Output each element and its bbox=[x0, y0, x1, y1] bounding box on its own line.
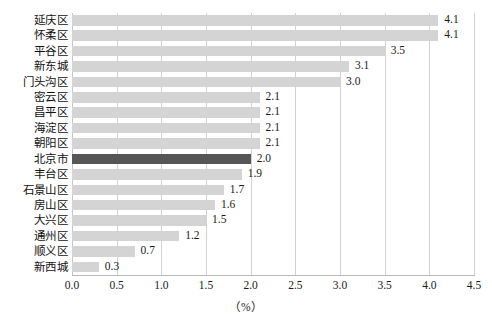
x-tick-4.5: 4.5 bbox=[467, 278, 481, 293]
bar-房山区[interactable] bbox=[72, 200, 215, 211]
bar-通州区[interactable] bbox=[72, 231, 179, 242]
bar-value-label: 2.1 bbox=[266, 120, 280, 134]
bar-顺义区[interactable] bbox=[72, 246, 135, 257]
bar-门头沟区[interactable] bbox=[72, 77, 340, 88]
bar-row: 1.2 bbox=[72, 229, 474, 244]
category-label-密云区: 密云区 bbox=[2, 90, 68, 105]
bar-value-label: 0.7 bbox=[141, 243, 155, 257]
category-label-新东城: 新东城 bbox=[2, 59, 68, 74]
bar-row: 2.1 bbox=[72, 105, 474, 120]
bar-value-label: 4.1 bbox=[444, 12, 458, 26]
bar-value-label: 2.1 bbox=[266, 135, 280, 149]
x-axis-line bbox=[72, 275, 475, 276]
bar-row: 3.0 bbox=[72, 75, 474, 90]
bar-value-label: 3.1 bbox=[355, 58, 369, 72]
x-tick-2.5: 2.5 bbox=[288, 278, 302, 293]
x-tick-1.5: 1.5 bbox=[199, 278, 213, 293]
category-label-昌平区: 昌平区 bbox=[2, 105, 68, 120]
category-label-北京市: 北京市 bbox=[2, 152, 68, 167]
x-tick-2.0: 2.0 bbox=[243, 278, 257, 293]
category-label-门头沟区: 门头沟区 bbox=[2, 75, 68, 90]
bar-北京市[interactable] bbox=[72, 154, 251, 165]
category-label-房山区: 房山区 bbox=[2, 198, 68, 213]
bar-朝阳区[interactable] bbox=[72, 138, 260, 149]
category-label-海淀区: 海淀区 bbox=[2, 121, 68, 136]
bar-row: 4.1 bbox=[72, 13, 474, 28]
x-tick-0.0: 0.0 bbox=[65, 278, 79, 293]
bar-value-label: 2.0 bbox=[257, 151, 271, 165]
bar-海淀区[interactable] bbox=[72, 123, 260, 134]
bar-value-label: 1.5 bbox=[212, 212, 226, 226]
bar-石景山区[interactable] bbox=[72, 185, 224, 196]
bar-value-label: 3.0 bbox=[346, 74, 360, 88]
category-label-怀柔区: 怀柔区 bbox=[2, 28, 68, 43]
bar-value-label: 1.9 bbox=[248, 166, 262, 180]
bar-chart: 延庆区怀柔区平谷区新东城门头沟区密云区昌平区海淀区朝阳区北京市丰台区石景山区房山… bbox=[0, 0, 492, 327]
bar-密云区[interactable] bbox=[72, 92, 260, 103]
bar-row: 2.1 bbox=[72, 121, 474, 136]
bar-新东城[interactable] bbox=[72, 61, 349, 72]
bar-新西城[interactable] bbox=[72, 262, 99, 273]
category-label-通州区: 通州区 bbox=[2, 229, 68, 244]
bar-row: 3.5 bbox=[72, 44, 474, 59]
bar-平谷区[interactable] bbox=[72, 46, 385, 57]
category-label-平谷区: 平谷区 bbox=[2, 44, 68, 59]
x-tick-0.5: 0.5 bbox=[109, 278, 123, 293]
bar-row: 1.9 bbox=[72, 167, 474, 182]
bar-大兴区[interactable] bbox=[72, 215, 206, 226]
gridline-4.5 bbox=[474, 13, 475, 275]
x-axis-title: （%） bbox=[0, 298, 492, 314]
x-tick-3.5: 3.5 bbox=[377, 278, 391, 293]
bar-value-label: 2.1 bbox=[266, 104, 280, 118]
bar-row: 4.1 bbox=[72, 28, 474, 43]
x-tick-3.0: 3.0 bbox=[333, 278, 347, 293]
category-label-大兴区: 大兴区 bbox=[2, 213, 68, 228]
bar-value-label: 1.6 bbox=[221, 197, 235, 211]
bar-row: 1.6 bbox=[72, 198, 474, 213]
bar-value-label: 2.1 bbox=[266, 89, 280, 103]
category-label-新西城: 新西城 bbox=[2, 260, 68, 275]
bar-丰台区[interactable] bbox=[72, 169, 242, 180]
category-label-顺义区: 顺义区 bbox=[2, 244, 68, 259]
bar-row: 2.0 bbox=[72, 152, 474, 167]
plot-area: 4.14.13.53.13.02.12.12.12.12.01.91.71.61… bbox=[72, 13, 474, 275]
bar-value-label: 3.5 bbox=[391, 43, 405, 57]
bar-row: 3.1 bbox=[72, 59, 474, 74]
category-axis-labels: 延庆区怀柔区平谷区新东城门头沟区密云区昌平区海淀区朝阳区北京市丰台区石景山区房山… bbox=[0, 13, 68, 275]
category-label-延庆区: 延庆区 bbox=[2, 13, 68, 28]
category-label-石景山区: 石景山区 bbox=[2, 183, 68, 198]
x-tick-1.0: 1.0 bbox=[154, 278, 168, 293]
bar-value-label: 1.7 bbox=[230, 182, 244, 196]
x-tick-4.0: 4.0 bbox=[422, 278, 436, 293]
bar-row: 0.3 bbox=[72, 260, 474, 275]
bar-延庆区[interactable] bbox=[72, 15, 438, 26]
bar-昌平区[interactable] bbox=[72, 107, 260, 118]
bar-row: 0.7 bbox=[72, 244, 474, 259]
bar-row: 1.5 bbox=[72, 213, 474, 228]
category-label-朝阳区: 朝阳区 bbox=[2, 136, 68, 151]
bar-怀柔区[interactable] bbox=[72, 30, 438, 41]
bar-row: 2.1 bbox=[72, 90, 474, 105]
bar-value-label: 1.2 bbox=[185, 228, 199, 242]
bar-row: 1.7 bbox=[72, 183, 474, 198]
bar-row: 2.1 bbox=[72, 136, 474, 151]
category-label-丰台区: 丰台区 bbox=[2, 167, 68, 182]
bar-value-label: 4.1 bbox=[444, 27, 458, 41]
bar-value-label: 0.3 bbox=[105, 259, 119, 273]
